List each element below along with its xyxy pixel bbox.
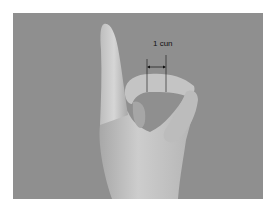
cun-label: 1 cun [153, 39, 173, 48]
hand-photo [13, 13, 263, 199]
index-finger [100, 24, 128, 125]
hand-illustration [13, 13, 263, 199]
thumb [164, 90, 198, 142]
